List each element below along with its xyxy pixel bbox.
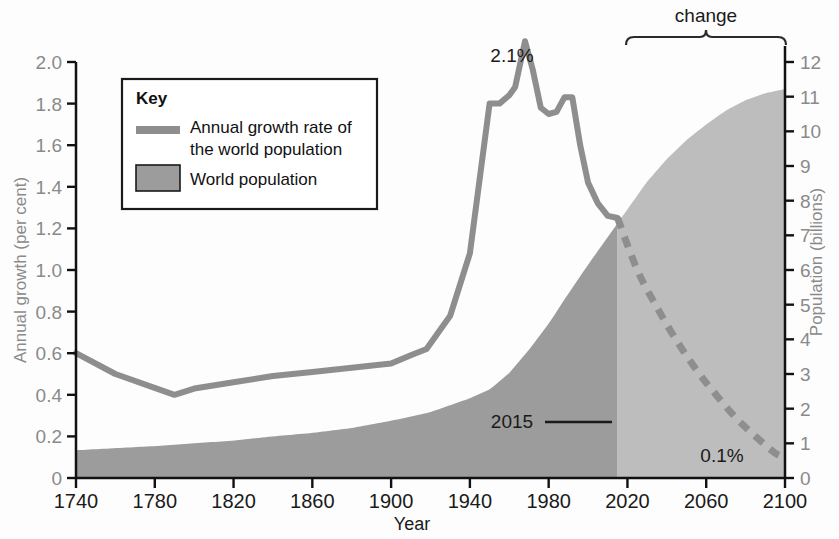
left-tick-label: 2.0 [36, 52, 62, 73]
legend-title: Key [136, 89, 168, 108]
right-tick-label: 0 [800, 468, 811, 489]
left-tick-label: 0.2 [36, 426, 62, 447]
left-tick-label: 0.4 [36, 385, 63, 406]
bottom-tick-label: 2020 [605, 490, 650, 512]
bottom-axis-ticks [76, 478, 785, 488]
right-axis-ticks [785, 62, 794, 478]
legend-line-swatch-icon [136, 126, 180, 134]
legend-item-growth-label-line1: Annual growth rate of [190, 118, 352, 137]
chart-canvas: 00.20.40.60.81.01.21.41.61.82.0 01234567… [0, 0, 839, 539]
bottom-axis-tick-labels: 1740178018201860190019401980202020602100 [54, 490, 808, 512]
left-tick-label: 0 [51, 468, 62, 489]
left-tick-label: 1.6 [36, 135, 62, 156]
bottom-tick-label: 1860 [290, 490, 335, 512]
right-tick-label: 11 [800, 87, 820, 108]
bottom-tick-label: 1740 [54, 490, 99, 512]
bottom-tick-label: 1820 [211, 490, 256, 512]
bottom-tick-label: 1980 [526, 490, 571, 512]
right-tick-label: 9 [800, 156, 811, 177]
left-tick-label: 1.2 [36, 218, 62, 239]
left-tick-label: 1.0 [36, 260, 62, 281]
bottom-tick-label: 2100 [763, 490, 808, 512]
projection-bracket-label: change [675, 5, 737, 26]
bottom-axis-title: Year [394, 514, 430, 534]
right-tick-label: 12 [800, 52, 821, 73]
left-axis-title: Annual growth (per cent) [11, 177, 30, 363]
bottom-tick-label: 1780 [133, 490, 178, 512]
left-tick-label: 0.6 [36, 343, 62, 364]
left-axis-tick-labels: 00.20.40.60.81.01.21.41.61.82.0 [36, 52, 63, 489]
legend-area-swatch-icon [136, 165, 180, 191]
bottom-tick-label: 2060 [684, 490, 729, 512]
peak-growth-label: 2.1% [490, 45, 533, 66]
legend-box: Key Annual growth rate of the world popu… [122, 79, 377, 209]
population-growth-chart: 00.20.40.60.81.01.21.41.61.82.0 01234567… [0, 0, 839, 539]
right-axis-title: Population (billions) [807, 188, 826, 336]
world-population-area-historical [76, 223, 618, 478]
split-year-label: 2015 [491, 411, 533, 432]
right-tick-label: 1 [800, 433, 811, 454]
right-tick-label: 10 [800, 121, 821, 142]
legend-item-population-label: World population [190, 170, 317, 189]
left-tick-label: 0.8 [36, 302, 62, 323]
end-growth-label: 0.1% [700, 445, 743, 466]
right-tick-label: 3 [800, 364, 811, 385]
bottom-tick-label: 1940 [448, 490, 493, 512]
left-tick-label: 1.4 [36, 177, 63, 198]
right-tick-label: 2 [800, 399, 811, 420]
legend-item-growth-label-line2: the world population [190, 140, 342, 159]
projection-bracket [626, 30, 786, 45]
left-axis-ticks [67, 62, 76, 478]
left-tick-label: 1.8 [36, 94, 62, 115]
bottom-tick-label: 1900 [369, 490, 414, 512]
